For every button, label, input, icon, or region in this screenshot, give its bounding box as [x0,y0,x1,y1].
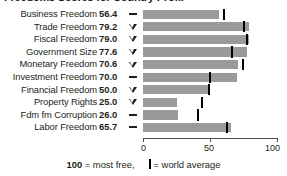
trend-flat-icon [126,121,139,134]
row-label: Trade Freedom [0,21,97,34]
row-plot [143,109,277,122]
triangle-down-icon [129,62,137,68]
value-bar [143,60,238,69]
row-plot [143,121,277,134]
chart-row: Monetary Freedom70.6 [0,58,287,71]
triangle-down-icon [129,36,137,42]
world-average-tick-icon [149,159,151,169]
triangle-down-icon [129,49,137,55]
world-average-marker [209,72,211,83]
row-value: 26.0 [99,109,123,122]
dash-icon [129,13,137,15]
row-label: Labor Freedom [0,121,97,134]
row-value: 70.0 [99,71,123,84]
row-value: 77.6 [99,46,123,59]
trend-flat-icon [126,8,139,21]
trend-down-icon [126,84,139,97]
row-value: 25.0 [99,96,123,109]
row-value: 50.0 [99,84,123,97]
world-average-marker [231,46,233,57]
row-value: 65.7 [99,121,123,134]
chart-legend: 100 = most free,= world average [0,157,287,173]
triangle-down-icon [129,24,137,30]
row-plot [143,84,277,97]
row-plot [143,21,277,34]
dash-icon [129,126,137,128]
world-average-marker [226,122,228,133]
legend-most-free-text: = most free, [85,159,135,170]
trend-flat-icon [126,71,139,84]
dash-icon [129,76,137,78]
legend-most-free-value: 100 [67,159,83,170]
value-bar [143,98,177,107]
row-label: Monetary Freedom [0,58,97,71]
chart-row: Financial Freedom50.0 [0,84,287,97]
legend-world-average-text: = world average [154,157,221,173]
value-bar [143,10,219,19]
x-axis-labels: 050100 [143,142,277,154]
chart-row: Trade Freedom79.2 [0,21,287,34]
legend-most-free: 100 = most free, [67,157,135,173]
row-plot [143,71,277,84]
freedoms-bar-chart: Freedoms Scores for Country Profile Busi… [0,0,287,176]
world-average-marker [246,34,248,45]
chart-rows: Business Freedom56.4Trade Freedom79.2Fis… [0,8,287,134]
world-average-marker [243,21,245,32]
row-value: 79.0 [99,33,123,46]
row-plot [143,96,277,109]
chart-row: Property Rights25.0 [0,96,287,109]
row-label: Financial Freedom [0,84,97,97]
chart-row: Business Freedom56.4 [0,8,287,21]
row-label: Property Rights [0,96,97,109]
chart-row: Fiscal Freedom79.0 [0,33,287,46]
chart-title-clipped: Freedoms Scores for Country Profile [4,0,184,3]
row-value: 79.2 [99,21,123,34]
dash-icon [129,114,137,116]
value-bar [143,35,249,44]
row-label: Fdm fm Corruption [0,109,97,122]
row-plot [143,58,277,71]
value-bar [143,73,237,82]
chart-row: Government Size77.6 [0,46,287,59]
triangle-down-icon [129,87,137,93]
trend-flat-icon [126,109,139,122]
chart-row: Labor Freedom65.7 [0,121,287,134]
value-bar [143,123,231,132]
axis-tick-label: 50 [204,142,214,154]
row-plot [143,8,277,21]
row-plot [143,46,277,59]
row-plot [143,33,277,46]
world-average-marker [223,9,225,20]
axis-tick-label: 100 [265,142,280,154]
chart-row: Fdm fm Corruption26.0 [0,109,287,122]
row-value: 70.6 [99,58,123,71]
world-average-marker [208,84,210,95]
page-title: Freedoms Scores for Country Profile [4,0,184,3]
world-average-marker [242,59,244,70]
world-average-marker [201,97,203,108]
row-value: 56.4 [99,8,123,21]
trend-down-icon [126,21,139,34]
trend-down-icon [126,33,139,46]
row-label: Government Size [0,46,97,59]
value-bar [143,85,210,94]
value-bar [143,110,178,119]
row-label: Business Freedom [0,8,97,21]
row-label: Fiscal Freedom [0,33,97,46]
trend-down-icon [126,46,139,59]
chart-row: Investment Freedom70.0 [0,71,287,84]
trend-down-icon [126,58,139,71]
world-average-marker [197,109,199,120]
row-label: Investment Freedom [0,71,97,84]
triangle-down-icon [129,99,137,105]
trend-down-icon [126,96,139,109]
value-bar [143,22,249,31]
axis-tick-label: 0 [141,142,146,154]
